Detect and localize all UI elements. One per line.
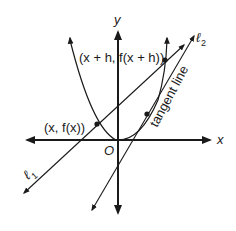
y-axis-label: y [113,12,122,27]
point-xh-fxh-label: (x + h, f(x + h)) [79,50,164,65]
point-x-fx [94,121,99,126]
origin-label: O [104,143,114,158]
tangent-l2-label: ℓ 2 [196,30,206,48]
x-axis-label: x [216,132,224,147]
svg-text:2: 2 [201,38,206,48]
point-x-fx-label: (x, f(x)) [44,120,85,135]
tangent-diagram: y x O (x, f(x)) (x + h, f(x + h)) ℓ 1 ℓ … [0,0,236,231]
